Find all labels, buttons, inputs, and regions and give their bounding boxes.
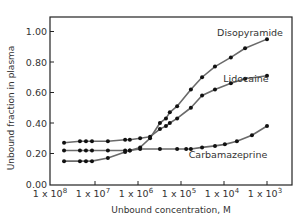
data-point-carbamazeprine [250,133,254,137]
y-tick-label: 0.40 [26,118,47,129]
y-axis-title: Unbound fraction in plasma [6,46,16,171]
data-point-disopyramide [78,159,82,163]
data-point-carbamazeprine [90,148,94,152]
data-point-carbamazeprine [138,147,142,151]
series-line-lidocaine [64,76,267,143]
x-axis: 1 x 1081 x 1071 x 1061 x 1051 x 1041 x 1… [33,181,282,199]
data-point-disopyramide [158,121,162,125]
data-point-disopyramide [90,159,94,163]
data-point-lidocaine [128,138,132,142]
data-point-carbamazeprine [175,147,179,151]
y-tick-label: 0.80 [26,57,47,68]
data-point-lidocaine [164,124,168,128]
data-point-disopyramide [84,159,88,163]
y-tick-label: 1.00 [26,26,47,37]
x-tick-label: 1 x 105 [162,187,196,199]
data-point-lidocaine [138,136,142,140]
data-point-carbamazeprine [265,124,269,128]
data-point-disopyramide [62,159,66,163]
data-point-lidocaine [175,116,179,120]
x-tick-label: 1 x 103 [248,187,282,199]
x-tick-label: 1 x 104 [205,187,240,199]
data-point-disopyramide [168,110,172,114]
data-point-carbamazeprine [123,148,127,152]
data-point-disopyramide [189,87,193,91]
data-point-carbamazeprine [128,148,132,152]
data-point-carbamazeprine [184,147,188,151]
data-point-lidocaine [84,139,88,143]
data-point-lidocaine [189,106,193,110]
data-point-lidocaine [62,141,66,145]
data-point-disopyramide [164,116,168,120]
data-point-lidocaine [200,94,204,98]
data-point-disopyramide [213,65,217,69]
data-point-carbamazeprine [235,139,239,143]
x-axis-title: Unbound concentration, M [111,205,230,215]
data-point-carbamazeprine [158,147,162,151]
data-point-disopyramide [106,156,110,160]
data-point-lidocaine [78,139,82,143]
x-tick-label: 1 x 106 [119,187,154,199]
data-point-carbamazeprine [84,148,88,152]
series-label-carbamazeprine: Carbamazeprine [189,149,268,160]
series-label-disopyramide: Disopyramide [217,27,283,38]
data-point-lidocaine [123,138,127,142]
data-point-lidocaine [213,87,217,91]
x-tick-label: 1 x 108 [33,187,67,199]
data-point-carbamazeprine [106,148,110,152]
data-point-disopyramide [229,55,233,59]
series-group [62,37,269,163]
series-line-carbamazeprine [64,126,267,150]
data-point-carbamazeprine [223,142,227,146]
data-point-carbamazeprine [62,148,66,152]
chart: 0.000.200.400.600.801.00 1 x 1081 x 1071… [0,0,307,221]
data-point-disopyramide [200,75,204,79]
series-label-lidocaine: Lidocaine [223,73,268,84]
data-point-disopyramide [175,104,179,108]
data-point-lidocaine [158,127,162,131]
y-tick-label: 0.60 [26,87,47,98]
y-tick-label: 0.20 [26,148,47,159]
data-point-lidocaine [168,121,172,125]
data-point-carbamazeprine [213,144,217,148]
data-point-lidocaine [90,139,94,143]
data-point-lidocaine [148,135,152,139]
data-point-lidocaine [106,139,110,143]
data-point-carbamazeprine [78,148,82,152]
x-tick-label: 1 x 107 [76,187,110,199]
data-point-disopyramide [243,46,247,50]
